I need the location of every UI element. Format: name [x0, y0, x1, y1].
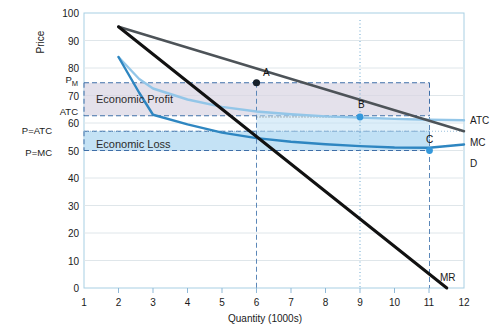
- y-tick-40: 40: [68, 173, 80, 184]
- marker-atc-level: ATC: [60, 106, 78, 117]
- marker-p-equals-mc: P=MC: [25, 147, 52, 158]
- data-point-c: [426, 147, 433, 154]
- y-tick-100: 100: [62, 8, 79, 19]
- x-axis-title: Quantity (1000s): [228, 313, 302, 324]
- data-point-b: [357, 114, 364, 121]
- x-tick-5: 5: [219, 297, 225, 308]
- y-tick-60: 60: [68, 118, 80, 129]
- y-tick-10: 10: [68, 256, 80, 267]
- x-tick-7: 7: [288, 297, 294, 308]
- curve-label-d: D: [470, 158, 477, 169]
- point-c-label: C: [426, 134, 433, 145]
- curve-label-atc: ATC: [470, 115, 489, 126]
- x-tick-2: 2: [116, 297, 122, 308]
- y-tick-30: 30: [68, 201, 80, 212]
- x-tick-1: 1: [81, 297, 87, 308]
- band-label-economic-profit: Economic Profit: [96, 93, 173, 105]
- x-tick-4: 4: [185, 297, 191, 308]
- x-tick-8: 8: [323, 297, 329, 308]
- x-tick-6: 6: [254, 297, 260, 308]
- x-tick-11: 11: [424, 297, 435, 308]
- curve-label-mc: MC: [470, 137, 486, 148]
- x-tick-3: 3: [150, 297, 156, 308]
- y-tick-50: 50: [68, 146, 80, 157]
- point-b-label: B: [358, 99, 365, 110]
- band-label-economic-loss: Economic Loss: [96, 138, 171, 150]
- y-tick-80: 80: [68, 63, 80, 74]
- curve-label-mr: MR: [440, 272, 456, 283]
- y-tick-0: 0: [73, 283, 79, 294]
- economics-chart: A B C Economic Profit Economic Loss 100 …: [0, 0, 503, 329]
- y-axis-title: Price: [35, 30, 46, 53]
- x-tick-12: 12: [458, 297, 470, 308]
- data-point-a: [253, 79, 260, 86]
- y-tick-90: 90: [68, 36, 80, 47]
- y-tick-70: 70: [68, 91, 80, 102]
- marker-p-equals-atc: P=ATC: [22, 125, 52, 136]
- x-tick-9: 9: [357, 297, 363, 308]
- point-a-label: A: [263, 67, 270, 78]
- y-tick-20: 20: [68, 228, 80, 239]
- x-tick-10: 10: [389, 297, 401, 308]
